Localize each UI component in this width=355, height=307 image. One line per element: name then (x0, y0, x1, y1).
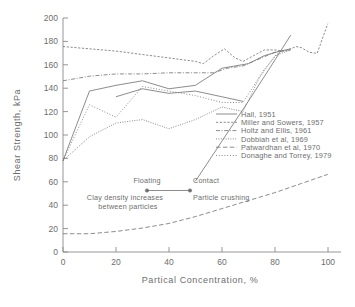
x-tick-label: 20 (111, 257, 121, 267)
annotation-contact: Contact (193, 176, 219, 185)
x-tick-labels: 0 20 40 60 80 100 (61, 257, 336, 267)
series-line (63, 24, 328, 64)
annotation-clay-density-line1: Clay density increases (87, 193, 164, 202)
y-tick-label: 80 (49, 153, 59, 163)
x-tick-label: 100 (321, 257, 335, 267)
y-tick-label: 40 (49, 200, 59, 210)
legend-item-label: Donaghe and Torrey, 1979 (241, 151, 331, 160)
x-axis-ticks (63, 247, 328, 252)
y-tick-labels: 0 20 40 60 80 100 120 140 160 180 200 (44, 13, 58, 257)
annotation-particle-crushing: Particle crushing (193, 193, 250, 202)
x-tick-label: 40 (164, 257, 174, 267)
y-tick-label: 120 (44, 107, 58, 117)
y-tick-label: 160 (44, 60, 58, 70)
y-axis-title: Shear Strength, kPa (12, 89, 22, 181)
chart-plot-area: 0 20 40 60 80 100 120 140 160 180 200 0 … (0, 0, 355, 307)
x-tick-label: 0 (61, 257, 66, 267)
annotation-clay-density-line2: between particles (98, 202, 158, 211)
y-tick-label: 180 (44, 36, 58, 46)
annotation-group: Floating Contact Clay density increases … (87, 176, 250, 211)
y-tick-label: 60 (49, 177, 59, 187)
y-axis-ticks (63, 18, 68, 252)
y-tick-label: 20 (49, 224, 59, 234)
chart-legend: Hall, 1951Miller and Sowers, 1957Holtz a… (216, 110, 331, 161)
x-axis-title: Partical Concentration, % (142, 275, 259, 285)
y-tick-label: 140 (44, 83, 58, 93)
annotation-floating: Floating (133, 176, 160, 185)
y-tick-label: 0 (53, 247, 58, 257)
x-tick-label: 60 (217, 257, 227, 267)
y-tick-label: 200 (44, 13, 58, 23)
series-line (63, 50, 291, 81)
y-tick-label: 100 (44, 130, 58, 140)
chart-figure: 0 20 40 60 80 100 120 140 160 180 200 0 … (0, 0, 355, 307)
x-tick-label: 80 (270, 257, 280, 267)
